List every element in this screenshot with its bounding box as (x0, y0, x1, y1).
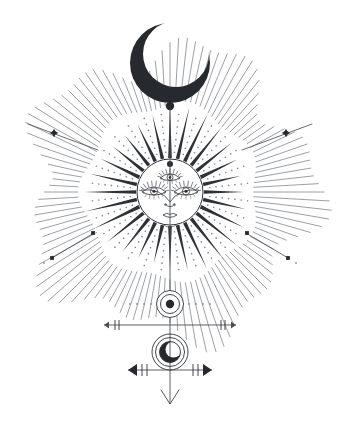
ray-dot (108, 153, 110, 155)
ray-dot (207, 130, 209, 132)
ray-dot (221, 185, 223, 187)
ray-dot (148, 157, 150, 159)
ray-dot (145, 230, 147, 232)
ray-dot (220, 140, 222, 142)
ray-dot (160, 269, 162, 271)
ray-dot (202, 158, 204, 160)
ray-dot (182, 153, 184, 155)
ray-dot (141, 147, 143, 149)
ray-dot (203, 212, 205, 214)
ray-dot (119, 209, 121, 211)
ray-dot (125, 163, 127, 165)
ray-dot (197, 219, 199, 221)
ray-dot (204, 136, 206, 138)
ray-dot (136, 158, 138, 160)
ray-dot (207, 178, 209, 180)
ray-dot (230, 229, 232, 231)
ray-dot (215, 237, 217, 239)
ray-dot (150, 247, 152, 249)
ray-dot (163, 250, 165, 252)
ray-dot (111, 185, 113, 187)
ray-dot (235, 233, 237, 235)
ray-dot (234, 184, 236, 186)
ray-dot (178, 269, 180, 271)
orb-side-dot (195, 303, 197, 305)
ray-dot (107, 170, 109, 172)
ray-dot (118, 242, 120, 244)
ray-dot (209, 187, 211, 189)
ray-dot (102, 215, 104, 217)
ray-dot (132, 228, 134, 230)
ray-dot (219, 209, 221, 211)
ray-dot (215, 186, 217, 188)
orb-side-dot (209, 303, 211, 305)
accent-square-dot (91, 231, 95, 235)
ray-dot (92, 200, 94, 202)
ray-dot (141, 236, 143, 238)
orb-side-dot (202, 303, 204, 305)
ray-dot (206, 154, 208, 156)
ray-dot (160, 114, 162, 116)
ray-dot (176, 250, 178, 252)
ray-dot (145, 259, 147, 261)
ray-dot (119, 174, 121, 176)
ray-dot (145, 152, 147, 154)
ray-dot (129, 187, 131, 189)
ray-dot (194, 230, 196, 232)
ray-dot (123, 237, 125, 239)
ray-dot (119, 223, 121, 225)
ray-dot (211, 257, 213, 259)
ray-dot (228, 198, 230, 200)
orb-side-dot (188, 303, 190, 305)
ray-dot (237, 215, 239, 217)
accent-square-dot (50, 256, 54, 260)
ray-dot (197, 147, 199, 149)
accent-speck-dot (295, 262, 297, 264)
ray-dot (152, 141, 154, 143)
ray-dot (154, 147, 156, 149)
ray-dot (243, 165, 245, 167)
ray-dot (108, 229, 110, 231)
ray-dot (224, 156, 226, 158)
ray-dot (163, 243, 165, 245)
orb-side-dot (143, 303, 145, 305)
celestial-artwork-canvas (0, 0, 340, 432)
ray-dot (213, 206, 215, 208)
ray-dot (230, 153, 232, 155)
ray-dot (164, 237, 166, 239)
orb-upper-center-dot (166, 300, 174, 308)
ray-dot (235, 150, 237, 152)
crescent-moon-shape (130, 23, 210, 103)
ray-dot (129, 196, 131, 198)
ray-dot (184, 235, 186, 237)
ray-dot (177, 262, 179, 264)
ray-dot (214, 219, 216, 221)
ray-dot (189, 135, 191, 137)
ray-dot (131, 252, 133, 254)
ray-dot (247, 200, 249, 202)
ray-dot (204, 246, 206, 248)
ray-dot (211, 149, 213, 151)
ray-dot (190, 157, 192, 159)
ray-dot (128, 125, 130, 127)
ray-dot (221, 197, 223, 199)
ray-dot (234, 198, 236, 200)
ray-dot (135, 170, 137, 172)
ray-dot (240, 183, 242, 185)
ray-dot (215, 145, 217, 147)
ray-dot (197, 236, 199, 238)
ray-dot (176, 256, 178, 258)
ray-dot (113, 211, 115, 213)
ray-dot (123, 145, 125, 147)
ray-dot (225, 211, 227, 213)
ray-dot (191, 253, 193, 255)
ray-dot (224, 246, 226, 248)
ray-dot (187, 141, 189, 143)
ray-dot (231, 170, 233, 172)
ray-dot (247, 182, 249, 184)
ray-dot (123, 186, 125, 188)
ray-dot (102, 167, 104, 169)
ray-dot (184, 147, 186, 149)
ray-dot (176, 126, 178, 128)
celestial-emblem-illustration (0, 0, 340, 432)
